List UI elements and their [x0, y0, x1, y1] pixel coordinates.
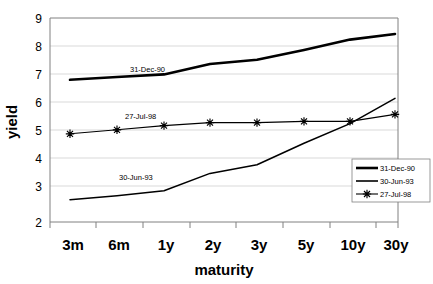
x-tick-label-3y: 3y [251, 236, 268, 253]
data-point-marker [113, 126, 121, 134]
inline-annotation-27-jul-98: 27-Jul-98 [125, 112, 156, 121]
plot-background [50, 18, 398, 222]
chart-canvas: 9 8 7 6 5 4 3 2 3m 6m 1y 2y 3y 5y 10y 30… [0, 0, 433, 284]
x-tick-label-30y: 30y [383, 236, 409, 253]
legend-label-27-jul-98: 27-Jul-98 [380, 190, 411, 199]
y-tick-label-5: 5 [35, 124, 42, 138]
y-tick-label-7: 7 [35, 68, 42, 82]
x-axis-tick-labels: 3m 6m 1y 2y 3y 5y 10y 30y [62, 236, 409, 253]
data-point-marker [160, 121, 168, 129]
inline-annotation-31-dec-90: 31-Dec-90 [130, 65, 165, 74]
data-point-marker [391, 110, 399, 118]
x-axis-title: maturity [194, 261, 254, 278]
legend-label-31-dec-90: 31-Dec-90 [380, 164, 415, 173]
y-axis-tick-labels: 9 8 7 6 5 4 3 2 [35, 12, 42, 230]
y-tick-label-3: 3 [35, 180, 42, 194]
y-tick-label-8: 8 [35, 40, 42, 54]
x-tick-label-3m: 3m [62, 236, 84, 253]
data-point-marker [66, 130, 74, 138]
y-tick-label-2: 2 [35, 216, 42, 230]
data-point-marker [300, 117, 308, 125]
x-tick-label-2y: 2y [205, 236, 222, 253]
data-point-marker [253, 118, 261, 126]
legend-marker-27-jul-98 [363, 190, 371, 198]
data-point-marker [206, 118, 214, 126]
legend-label-30-jun-93: 30-Jun-93 [380, 177, 414, 186]
y-tick-label-9: 9 [35, 12, 42, 26]
x-tick-label-1y: 1y [158, 236, 175, 253]
x-tick-label-10y: 10y [340, 236, 366, 253]
inline-annotation-30-jun-93: 30-Jun-93 [119, 173, 153, 182]
y-tick-label-6: 6 [35, 96, 42, 110]
x-axis-tickmarks [50, 222, 398, 228]
y-axis-title: yield [3, 105, 20, 139]
x-tick-label-5y: 5y [298, 236, 315, 253]
data-point-marker [346, 117, 354, 125]
y-tick-label-4: 4 [35, 152, 42, 166]
chart-legend: 31-Dec-90 30-Jun-93 27-Jul-98 [352, 159, 430, 202]
yield-curve-chart: 9 8 7 6 5 4 3 2 3m 6m 1y 2y 3y 5y 10y 30… [0, 0, 433, 284]
x-tick-label-6m: 6m [108, 236, 130, 253]
